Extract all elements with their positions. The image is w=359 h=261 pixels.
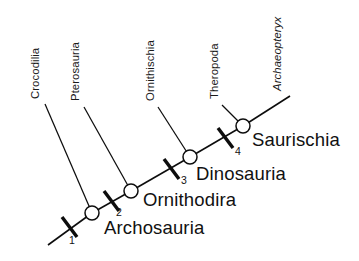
node-dinosauria [183, 150, 197, 164]
tick-mark-4 [218, 128, 233, 148]
clade-label-archosauria: Archosauria [104, 217, 205, 238]
node-saurischia [236, 119, 250, 133]
branch-crocodilia [45, 104, 92, 213]
tick-number-2: 2 [116, 206, 122, 218]
taxon-label-archaeopteryx: Archaeopteryx [271, 17, 283, 92]
node-ornithodira [124, 184, 138, 198]
cladogram-canvas: Crocodilia Pterosauria Ornithischia Ther… [0, 0, 359, 261]
spine-saurischia-archaeopteryx [243, 96, 290, 126]
tick-number-4: 4 [235, 145, 241, 157]
clade-label-dinosauria: Dinosauria [196, 163, 286, 184]
clade-label-group: Archosauria Ornithodira Dinosauria Sauri… [104, 129, 340, 238]
cladogram-figure: Crocodilia Pterosauria Ornithischia Ther… [0, 0, 359, 261]
taxon-label-pterosauria: Pterosauria [69, 42, 81, 101]
branch-ornithischia [158, 107, 190, 157]
clade-label-saurischia: Saurischia [252, 129, 340, 150]
tick-number-3: 3 [181, 174, 187, 186]
taxon-label-ornithischia: Ornithischia [144, 40, 156, 101]
taxon-label-crocodilia: Crocodilia [29, 47, 41, 99]
branch-pterosauria [84, 107, 131, 191]
taxon-label-theropoda: Theropoda [208, 43, 220, 99]
node-archosauria [85, 206, 99, 220]
taxon-label-group: Crocodilia Pterosauria Ornithischia Ther… [29, 17, 283, 101]
tick-mark-3 [164, 159, 179, 179]
clade-label-ornithodira: Ornithodira [143, 189, 237, 210]
tick-number-1: 1 [69, 234, 75, 246]
